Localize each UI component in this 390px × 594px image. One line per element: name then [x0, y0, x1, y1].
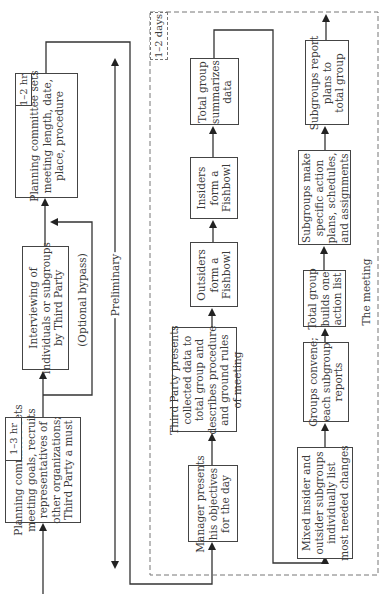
duration-tag-meeting: 1–2 days — [150, 12, 168, 60]
duration-tag-goals: 1–3 hr — [5, 417, 22, 461]
step-action-list-box: Total group builds one action list — [303, 270, 346, 327]
step-insiders-text: Insiders form a Fishbowl — [195, 164, 233, 212]
step-summarize-text: Total group summarizes data — [196, 60, 234, 124]
step-mixed-subgroups-text: Mixed insider and outsider subgroups ind… — [300, 445, 350, 560]
step-interview-text: Interviewing of individuals or subgroups… — [27, 242, 65, 374]
step-action-plans-text: Subgroups make specific action plans, sc… — [300, 152, 350, 243]
duration-tag-logistics: 1–2 hr — [15, 73, 32, 106]
step-action-plans-box: Subgroups make specific action plans, sc… — [298, 150, 351, 245]
step-interview-box: Interviewing of individuals or subgroups… — [22, 246, 69, 370]
step-outsiders-box: Outsiders form a Fishbowl — [190, 242, 238, 307]
step-manager-text: Manager presents his objectives for the … — [194, 455, 232, 552]
step-report-box: Subgroups report plans to total group — [305, 40, 349, 125]
step-outsiders-text: Outsiders form a Fishbowl — [195, 249, 233, 301]
meeting-phase-label: The meeting — [360, 257, 372, 328]
step-insiders-box: Insiders form a Fishbowl — [190, 157, 238, 219]
step-manager-box: Manager presents his objectives for the … — [188, 465, 238, 542]
step-action-list-text: Total group builds one action list — [306, 268, 344, 329]
preliminary-phase-label: Preliminary — [109, 252, 121, 318]
step-mixed-subgroups-box: Mixed insider and outsider subgroups ind… — [297, 447, 353, 559]
step-logistics-text: Planning committee sets meeting length, … — [28, 70, 66, 201]
optional-bypass-label: (Optional bypass) — [76, 251, 88, 349]
step-summarize-box: Total group summarizes data — [190, 58, 239, 125]
step-third-party-box: Third Party presents collected data to t… — [172, 327, 237, 432]
step-report-text: Subgroups report plans to total group — [308, 35, 346, 129]
step-groups-convene-box: Groups convene; each subgroup reports — [303, 342, 349, 422]
process-flow-diagram: Planning committee sets meeting goals, r… — [0, 0, 390, 594]
step-groups-convene-text: Groups convene; each subgroup reports — [307, 337, 345, 427]
step-third-party-text: Third Party presents collected data to t… — [167, 325, 242, 435]
